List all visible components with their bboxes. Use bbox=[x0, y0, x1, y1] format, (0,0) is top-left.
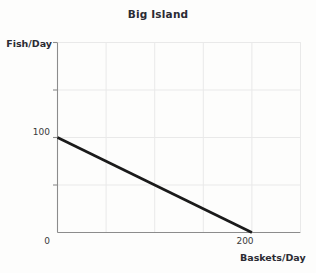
chart-figure: Big Island Fish/Day Baskets/Day 100 0 20… bbox=[0, 0, 316, 273]
axis-ticks bbox=[53, 43, 58, 186]
horizontal-gridlines bbox=[58, 43, 301, 233]
plot-area bbox=[0, 0, 316, 273]
